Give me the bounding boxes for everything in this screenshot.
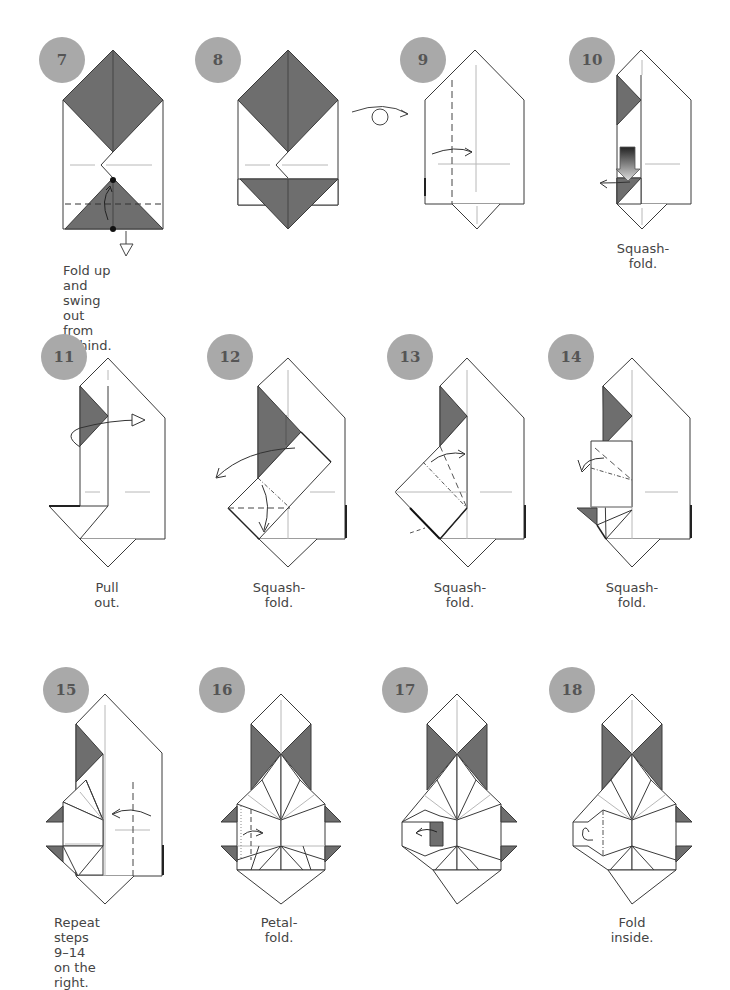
step-caption: Repeat steps 9–14 on the right.	[54, 915, 100, 990]
step-caption: Pull out.	[94, 580, 119, 610]
step-caption: Squash-fold.	[617, 241, 669, 271]
step-caption: Squash-fold.	[434, 580, 486, 610]
step-caption: Squash-fold.	[253, 580, 305, 610]
turn-over-icon	[352, 106, 408, 125]
step-caption: Fold inside.	[611, 915, 654, 945]
bird-base-figure	[221, 694, 341, 904]
step-caption: Squash-fold.	[606, 580, 658, 610]
step-11-diagram	[45, 355, 170, 560]
step-14-diagram	[570, 355, 700, 565]
step-12-diagram	[205, 355, 360, 565]
step-9-diagram	[350, 45, 520, 235]
step-16-diagram	[215, 690, 350, 910]
step-10-diagram	[590, 45, 700, 235]
step-8-diagram	[230, 45, 350, 235]
step-13-diagram	[390, 355, 530, 565]
step-caption: Petal-fold.	[261, 915, 298, 945]
step-15-diagram	[40, 690, 170, 905]
step-7-diagram	[55, 45, 175, 260]
swing-out-arrow-icon	[120, 244, 133, 256]
step-18-diagram	[565, 690, 700, 910]
step-17-diagram	[395, 690, 525, 910]
